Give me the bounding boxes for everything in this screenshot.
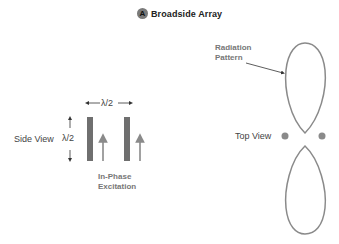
pattern-label-line1: Radiation [215,43,251,53]
radiation-lobe-top [286,43,326,133]
radiation-pattern-label: Radiation Pattern [215,43,251,63]
excitation-label: In-Phase Excitation [98,172,136,192]
top-view-element-2 [319,133,326,140]
radiation-lobe-bottom [286,146,326,234]
diagram-graphics [0,0,339,244]
top-view-element-1 [282,133,289,140]
pattern-label-line2: Pattern [215,53,251,63]
spacing-label: λ/2 [101,98,113,108]
pattern-pointer-arrow [246,63,283,73]
height-label: λ/2 [62,133,74,143]
excitation-label-line2: Excitation [98,182,136,192]
top-view-label: Top View [235,131,271,141]
side-view-label: Side View [14,134,54,144]
antenna-element-2 [124,117,130,161]
antenna-element-1 [87,117,93,161]
excitation-label-line1: In-Phase [98,172,136,182]
